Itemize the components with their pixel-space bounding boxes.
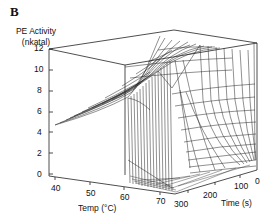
surface-high-temp bbox=[158, 44, 256, 173]
surface-cliff bbox=[128, 61, 172, 191]
surface-plot bbox=[0, 0, 271, 223]
